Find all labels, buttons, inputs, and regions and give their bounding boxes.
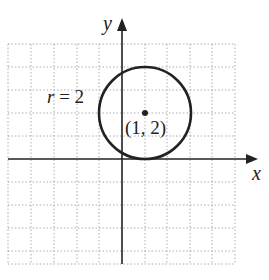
x-axis-label: x xyxy=(252,162,261,185)
coordinate-plane xyxy=(0,0,269,280)
center-label: (1, 2) xyxy=(125,117,166,139)
radius-value: = 2 xyxy=(54,86,84,107)
y-axis-label: y xyxy=(103,12,112,35)
center-point xyxy=(142,110,148,116)
radius-label: r = 2 xyxy=(47,86,84,108)
y-axis-arrow-icon xyxy=(117,18,127,31)
